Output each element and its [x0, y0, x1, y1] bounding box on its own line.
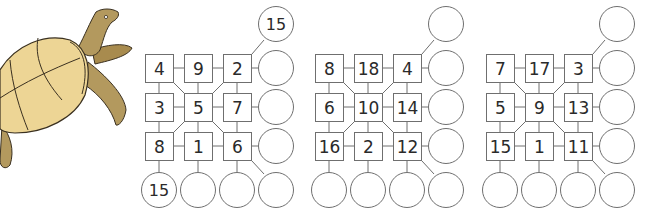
column-sum-circle[interactable] [311, 172, 347, 208]
grid-cell: 18 [354, 54, 383, 83]
diagonal-sum-circle[interactable]: 15 [258, 6, 294, 42]
diagonal-sum-circle[interactable] [428, 6, 464, 42]
diagonal-sum-circle[interactable] [599, 6, 635, 42]
row-sum-circle[interactable] [258, 50, 294, 86]
grid-cell: 16 [315, 132, 344, 161]
column-sum-circle[interactable] [560, 172, 596, 208]
diagonal-sum-circle[interactable] [599, 172, 635, 208]
column-sum-circle[interactable] [180, 172, 216, 208]
grid-cell: 12 [393, 132, 422, 161]
grid-cell: 3 [564, 54, 593, 83]
grid-cell: 15 [486, 132, 515, 161]
column-sum-circle[interactable] [389, 172, 425, 208]
grid-cell: 6 [315, 93, 344, 122]
grid-cell: 3 [145, 93, 174, 122]
magic-square-puzzle-3: 7 17 3 5 9 13 15 1 11 [483, 0, 653, 218]
diagonal-sum-circle[interactable] [428, 172, 464, 208]
column-sum-circle[interactable] [521, 172, 557, 208]
grid-cell: 11 [564, 132, 593, 161]
grid-cell: 8 [145, 132, 174, 161]
grid-cell: 8 [315, 54, 344, 83]
grid-cell: 17 [525, 54, 554, 83]
grid-cell: 6 [223, 132, 252, 161]
grid-cell: 2 [223, 54, 252, 83]
grid-cell: 14 [393, 93, 422, 122]
grid-cell: 4 [145, 54, 174, 83]
grid-cell: 13 [564, 93, 593, 122]
grid-cell: 7 [486, 54, 515, 83]
grid-cell: 9 [184, 54, 213, 83]
grid-cell: 4 [393, 54, 422, 83]
row-sum-circle[interactable] [599, 128, 635, 164]
magic-square-puzzle-2: 8 18 4 6 10 14 16 2 12 [312, 0, 482, 218]
diagonal-sum-circle[interactable] [258, 172, 294, 208]
row-sum-circle[interactable] [428, 128, 464, 164]
row-sum-circle[interactable] [258, 89, 294, 125]
grid-cell: 5 [486, 93, 515, 122]
grid-cell: 2 [354, 132, 383, 161]
column-sum-circle[interactable] [350, 172, 386, 208]
turtle-illustration [0, 0, 150, 218]
column-sum-circle[interactable] [219, 172, 255, 208]
column-sum-circle[interactable] [482, 172, 518, 208]
grid-cell: 10 [354, 93, 383, 122]
grid-cell: 9 [525, 93, 554, 122]
grid-cell: 1 [525, 132, 554, 161]
row-sum-circle[interactable] [599, 89, 635, 125]
column-sum-circle[interactable]: 15 [141, 172, 177, 208]
row-sum-circle[interactable] [428, 50, 464, 86]
grid-cell: 7 [223, 93, 252, 122]
grid-cell: 1 [184, 132, 213, 161]
row-sum-circle[interactable] [599, 50, 635, 86]
magic-square-puzzle-1: 4 9 2 3 5 7 8 1 6 15 15 [142, 0, 312, 218]
row-sum-circle[interactable] [428, 89, 464, 125]
row-sum-circle[interactable] [258, 128, 294, 164]
grid-cell: 5 [184, 93, 213, 122]
